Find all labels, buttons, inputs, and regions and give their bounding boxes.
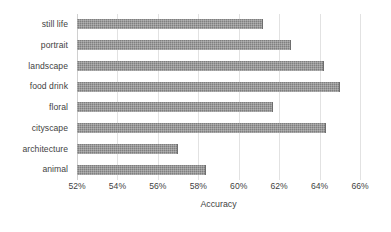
y-axis-category-labels: still lifeportraitlandscapefood drinkflo… bbox=[0, 14, 73, 180]
category-label: animal bbox=[0, 159, 73, 180]
bar bbox=[77, 102, 273, 112]
x-tick-label: 58% bbox=[190, 182, 207, 191]
bar bbox=[77, 40, 291, 50]
bar-row bbox=[77, 14, 360, 35]
category-label: landscape bbox=[0, 56, 73, 77]
bar-row bbox=[77, 97, 360, 118]
bar bbox=[77, 165, 206, 175]
bar-row bbox=[77, 118, 360, 139]
category-label: food drink bbox=[0, 76, 73, 97]
bar bbox=[77, 19, 263, 29]
bar-series bbox=[77, 14, 360, 180]
category-label: portrait bbox=[0, 35, 73, 56]
x-tick-label: 62% bbox=[271, 182, 288, 191]
x-tick-label: 54% bbox=[109, 182, 126, 191]
x-tick-label: 52% bbox=[68, 182, 85, 191]
x-axis-tick-labels: 52%54%56%58%60%62%64%66% bbox=[77, 182, 360, 196]
category-label: floral bbox=[0, 97, 73, 118]
bar bbox=[77, 144, 178, 154]
category-label: architecture bbox=[0, 139, 73, 160]
category-label: still life bbox=[0, 14, 73, 35]
gridline bbox=[360, 14, 361, 180]
bar-chart: still lifeportraitlandscapefood drinkflo… bbox=[0, 0, 391, 232]
x-tick-label: 64% bbox=[311, 182, 328, 191]
x-tick-label: 56% bbox=[149, 182, 166, 191]
bar-row bbox=[77, 76, 360, 97]
x-tick-label: 60% bbox=[230, 182, 247, 191]
x-tick-label: 66% bbox=[351, 182, 368, 191]
bar-row bbox=[77, 56, 360, 77]
category-label: cityscape bbox=[0, 118, 73, 139]
bar bbox=[77, 82, 340, 92]
bar bbox=[77, 123, 326, 133]
x-axis-title: Accuracy bbox=[77, 200, 360, 209]
bar bbox=[77, 61, 324, 71]
bar-row bbox=[77, 159, 360, 180]
plot-area bbox=[77, 14, 360, 180]
bar-row bbox=[77, 35, 360, 56]
bar-row bbox=[77, 139, 360, 160]
